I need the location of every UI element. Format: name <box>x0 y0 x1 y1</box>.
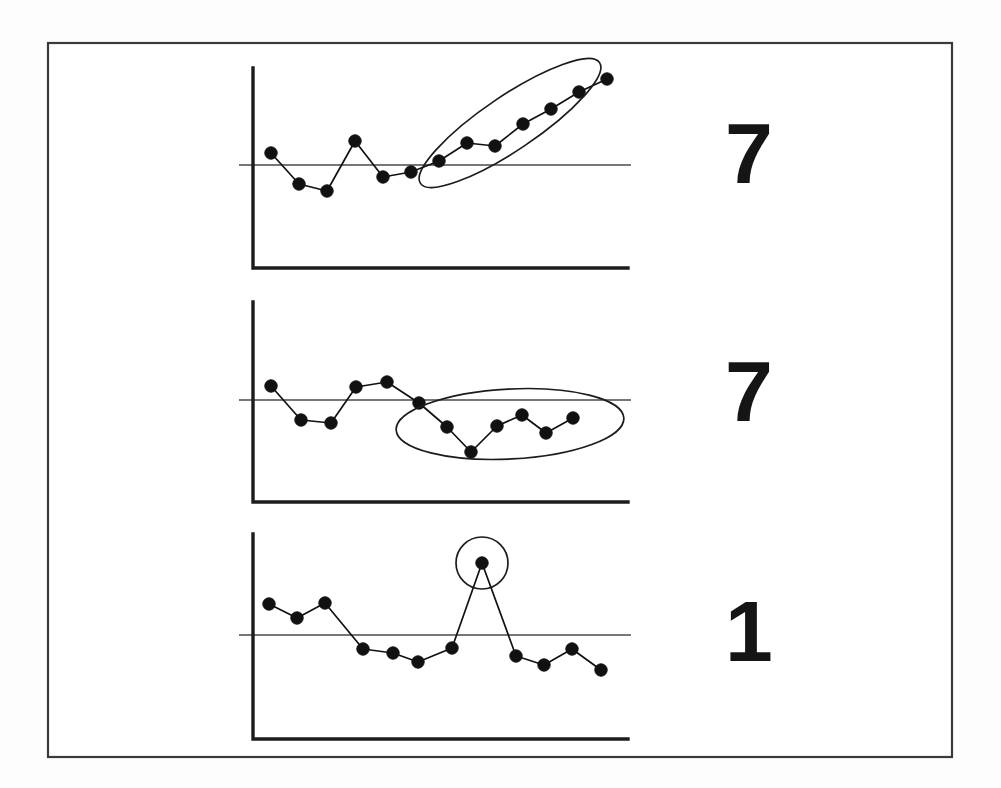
panel-1-data-point[interactable] <box>265 147 277 159</box>
panel-2-data-point[interactable] <box>567 412 579 424</box>
panel-1-data-point[interactable] <box>489 140 501 152</box>
figure-canvas: 7 7 1 <box>0 0 1001 788</box>
panel-3-data-point[interactable] <box>387 647 399 659</box>
panel-2-data-point[interactable] <box>540 427 552 439</box>
panel-1-count-label: 7 <box>725 105 771 201</box>
panel-2-data-point[interactable] <box>325 417 337 429</box>
panel-1-data-point[interactable] <box>545 103 557 115</box>
panel-1-data-point[interactable] <box>461 137 473 149</box>
panel-3-count-label: 1 <box>725 583 771 679</box>
panel-2-data-point[interactable] <box>441 421 453 433</box>
figure-root: 7 7 1 <box>0 0 1001 788</box>
panel-1-data-point[interactable] <box>293 178 305 190</box>
chart-panel-2[interactable] <box>239 296 634 508</box>
panel-1-data-point[interactable] <box>433 155 445 167</box>
panel-2-data-point[interactable] <box>465 446 477 458</box>
panel-3-data-point[interactable] <box>446 642 458 654</box>
panel-2-hit-area[interactable] <box>247 296 634 508</box>
panel-3-data-point[interactable] <box>319 597 331 609</box>
panel-1-data-point[interactable] <box>517 118 529 130</box>
panel-2-data-point[interactable] <box>381 376 393 388</box>
panel-3-data-point[interactable] <box>291 612 303 624</box>
chart-panel-3[interactable] <box>239 528 634 745</box>
panel-3-data-point[interactable] <box>476 557 488 569</box>
panel-3-data-point[interactable] <box>538 659 550 671</box>
panel-3-data-point[interactable] <box>510 650 522 662</box>
panel-2-data-point[interactable] <box>516 409 528 421</box>
panel-2-data-point[interactable] <box>265 380 277 392</box>
panel-2-data-point[interactable] <box>295 414 307 426</box>
chart-panel-1[interactable] <box>239 40 634 274</box>
panel-1-data-point[interactable] <box>601 73 613 85</box>
panel-3-data-point[interactable] <box>595 664 607 676</box>
panel-3-hit-area[interactable] <box>247 528 634 745</box>
panel-3-data-point[interactable] <box>412 656 424 668</box>
panel-1-data-point[interactable] <box>405 166 417 178</box>
panel-1-data-point[interactable] <box>349 135 361 147</box>
panel-1-data-point[interactable] <box>377 171 389 183</box>
panel-2-data-point[interactable] <box>350 381 362 393</box>
panel-3-data-point[interactable] <box>263 598 275 610</box>
panel-1-data-point[interactable] <box>321 185 333 197</box>
panel-2-count-label: 7 <box>725 343 771 439</box>
panel-2-data-point[interactable] <box>491 420 503 432</box>
panel-3-data-point[interactable] <box>566 643 578 655</box>
panel-3-data-point[interactable] <box>357 643 369 655</box>
